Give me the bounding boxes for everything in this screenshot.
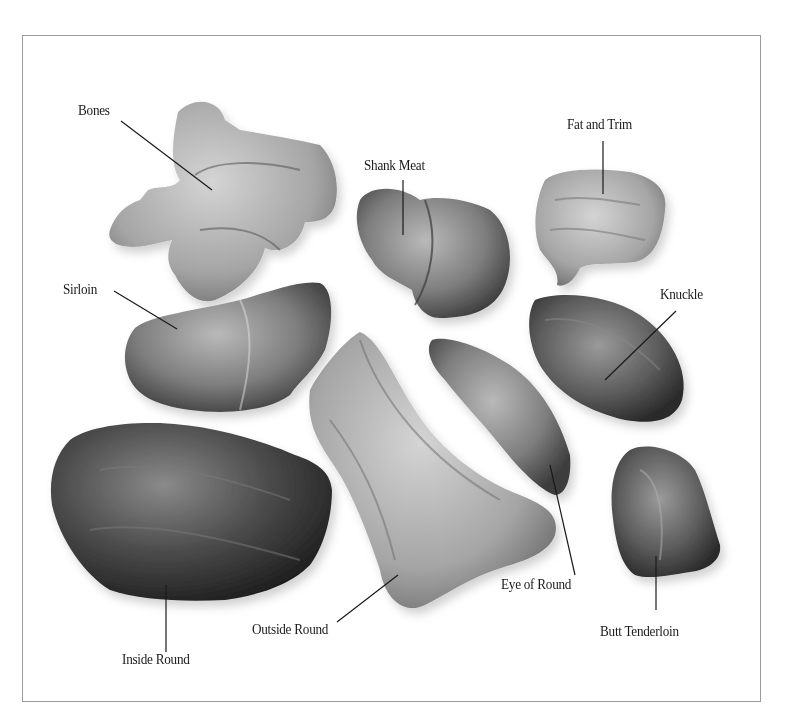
label-sirloin: Sirloin — [63, 281, 97, 298]
shank-meat-piece — [357, 189, 510, 318]
label-knuckle: Knuckle — [660, 286, 703, 303]
label-inside-round: Inside Round — [122, 651, 190, 668]
label-outside-round: Outside Round — [252, 621, 328, 638]
knuckle-piece — [529, 295, 684, 422]
label-shank-meat: Shank Meat — [364, 157, 425, 174]
label-bones: Bones — [78, 102, 110, 119]
label-eye-of-round: Eye of Round — [501, 576, 571, 593]
outside-round-leader-line — [337, 575, 398, 622]
label-butt-tenderloin: Butt Tenderloin — [600, 623, 679, 640]
label-fat-and-trim: Fat and Trim — [567, 116, 632, 133]
fat-and-trim-piece — [535, 170, 665, 286]
inside-round-piece — [51, 423, 332, 601]
butt-tenderloin-piece — [612, 447, 721, 578]
bones-piece — [109, 102, 337, 302]
sirloin-piece — [125, 282, 331, 411]
meat-cuts-illustration — [0, 0, 792, 714]
